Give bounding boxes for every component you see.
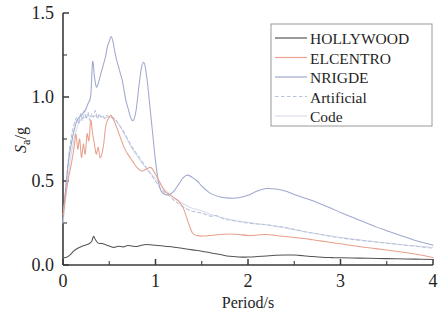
- spectral-acceleration-chart: 012340.00.51.01.5Period/sSa/gHOLLYWOODEL…: [0, 0, 439, 314]
- chart-canvas: 012340.00.51.01.5Period/sSa/gHOLLYWOODEL…: [0, 0, 439, 314]
- y-axis-title-symbol: S: [12, 145, 29, 153]
- legend: HOLLYWOODELCENTRONRIGDEArtificialCode: [271, 24, 432, 126]
- legend-label-nrigde: NRIGDE: [310, 69, 369, 86]
- series-line-hollywood: [63, 236, 433, 259]
- svg-text:Sa/g: Sa/g: [12, 127, 33, 153]
- x-tick-label: 1: [151, 271, 160, 291]
- x-tick-label: 4: [429, 271, 438, 291]
- y-axis-title-suffix: /g: [12, 127, 30, 139]
- x-axis-title: Period/s: [222, 294, 274, 311]
- x-tick-label: 2: [244, 271, 253, 291]
- y-tick-label: 1.5: [32, 3, 55, 23]
- legend-label-hollywood: HOLLYWOOD: [310, 30, 409, 47]
- y-axis-title: Sa/g: [12, 127, 33, 153]
- legend-label-code: Code: [310, 108, 343, 125]
- legend-label-elcentro: ELCENTRO: [310, 50, 391, 67]
- y-tick-label: 0.0: [32, 255, 55, 275]
- x-tick-label: 0: [59, 271, 68, 291]
- legend-label-artificial: Artificial: [310, 89, 367, 106]
- series-line-elcentro: [63, 115, 433, 257]
- y-tick-label: 1.0: [32, 87, 55, 107]
- y-tick-label: 0.5: [32, 171, 55, 191]
- x-tick-label: 3: [336, 271, 345, 291]
